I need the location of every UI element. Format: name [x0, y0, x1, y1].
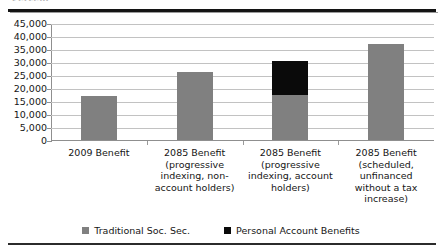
- bar-segment-traditional: [368, 44, 404, 140]
- bottom-rule: [8, 243, 436, 245]
- y-axis-tick-label: 5,000: [20, 123, 47, 133]
- y-axis-tick-mark: [47, 24, 51, 25]
- y-axis-tick-label: 40,000: [14, 32, 47, 42]
- category-label-line: indexing, non-: [147, 170, 243, 182]
- plot-area: [51, 24, 434, 141]
- y-axis-tick-label: 35,000: [14, 45, 47, 55]
- category-label-line: 2085 Benefit: [243, 147, 339, 159]
- legend-label: Traditional Soc. Sec.: [94, 225, 190, 236]
- y-axis-tick-mark: [47, 50, 51, 51]
- category-label-line: 2085 Benefit: [147, 147, 243, 159]
- category-label-line: 2085 Benefit: [338, 147, 434, 159]
- y-axis-tick-mark: [47, 89, 51, 90]
- x-axis-separator: [243, 141, 244, 145]
- bar-segment-traditional: [81, 96, 117, 140]
- bar-column: [177, 72, 213, 140]
- x-axis-category-labels: 2009 Benefit2085 Benefit(progressiveinde…: [51, 147, 434, 213]
- legend-swatch-traditional: [82, 227, 89, 234]
- gridline: [51, 37, 434, 38]
- category-label-line: indexing, account: [243, 170, 339, 182]
- category-label-line: 2009 Benefit: [51, 147, 147, 159]
- bar-column: [368, 44, 404, 140]
- bar-column: [272, 61, 308, 140]
- y-axis-tick-mark: [47, 128, 51, 129]
- y-axis-tick-label: 10,000: [14, 110, 47, 120]
- category-label-line: increase): [338, 193, 434, 205]
- gridline: [51, 24, 434, 25]
- x-axis-category-label: 2009 Benefit: [51, 147, 147, 159]
- top-rule-shadow: [10, 12, 438, 13]
- category-label-line: holders): [243, 182, 339, 194]
- y-axis-tick-mark: [47, 76, 51, 77]
- chart-legend: Traditional Soc. Sec.Personal Account Be…: [0, 222, 442, 238]
- category-label-line: (progressive: [147, 159, 243, 171]
- bar-segment-traditional: [272, 95, 308, 141]
- category-label-line: unfinanced: [338, 170, 434, 182]
- y-axis-tick-label: 20,000: [14, 84, 47, 94]
- y-axis-tick-label: 45,000: [14, 19, 47, 29]
- y-axis-tick-label: 30,000: [14, 58, 47, 68]
- y-axis-tick-label: 25,000: [14, 71, 47, 81]
- clipped-header-fragment: Percent: [12, 0, 50, 1]
- x-axis-separator: [147, 141, 148, 145]
- category-label-line: (progressive: [243, 159, 339, 171]
- bar-column: [81, 96, 117, 140]
- legend-item[interactable]: Traditional Soc. Sec.: [82, 225, 190, 236]
- y-axis-tick-mark: [47, 37, 51, 38]
- category-label-line: without a tax: [338, 182, 434, 194]
- y-axis-tick-mark: [47, 63, 51, 64]
- x-axis-category-label: 2085 Benefit(progressiveindexing, non-ac…: [147, 147, 243, 193]
- chart-figure: Percent 45,00040,00035,00030,00025,00020…: [0, 0, 442, 251]
- legend-item[interactable]: Personal Account Benefits: [224, 225, 360, 236]
- category-label-line: (scheduled,: [338, 159, 434, 171]
- legend-swatch-personal-account: [224, 227, 231, 234]
- y-axis-tick-labels: 45,00040,00035,00030,00025,00020,00015,0…: [0, 24, 47, 141]
- y-axis-tick-label: 15,000: [14, 97, 47, 107]
- bar-segment-traditional: [177, 72, 213, 140]
- category-label-line: account holders): [147, 182, 243, 194]
- y-axis-tick-mark: [47, 102, 51, 103]
- x-axis-category-label: 2085 Benefit(progressiveindexing, accoun…: [243, 147, 339, 193]
- x-axis-category-label: 2085 Benefit(scheduled,unfinancedwithout…: [338, 147, 434, 205]
- y-axis-tick-mark: [47, 115, 51, 116]
- x-axis-separator: [338, 141, 339, 145]
- y-axis-tick-mark: [47, 141, 51, 142]
- legend-label: Personal Account Benefits: [236, 225, 360, 236]
- bar-segment-personal-account: [272, 61, 308, 95]
